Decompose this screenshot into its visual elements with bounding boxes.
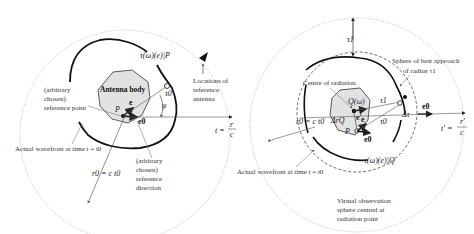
left-panel: Antenna body τ(ω)(e)|P Locations of refe… [15, 30, 236, 234]
t-frac-num: r [230, 120, 234, 129]
t-equals-label: t = [215, 126, 225, 135]
reference-direction-label-4: direction [136, 184, 161, 192]
right-panel: τ1 Sphere of best approach of radius τ1 … [237, 18, 467, 232]
reference-direction-leader [137, 121, 152, 158]
e0-label: e0 [364, 135, 372, 144]
P-label: P [344, 127, 350, 136]
t-frac-num: r' [460, 117, 465, 126]
radius-arrow [88, 118, 124, 203]
e0-label: e0 [138, 117, 146, 126]
radius-label: r0 = c t0 [92, 169, 120, 178]
tau0-label: τ0 [165, 89, 172, 98]
t-frac-den: c [460, 128, 464, 137]
sphere-best-label-2: of radius τ1 [403, 67, 436, 75]
radius-label: r0 = c t0 [296, 117, 324, 126]
e0-arrow-label: e0 [422, 102, 430, 111]
pattern-label: τ(ω)(e)|P [140, 51, 170, 60]
Q-label: Q(ω) [348, 97, 365, 106]
antenna-body [330, 88, 370, 135]
observation-sphere [20, 30, 230, 234]
P-label: P [114, 105, 120, 114]
reference-direction-label-2: chosen) [136, 166, 158, 174]
actual-wavefront-label: Actual wavefront at time t = t0 [237, 168, 324, 176]
pattern-label: τ(ω)(e)|Q [364, 156, 395, 165]
virtual-sphere-label-1: Virtual observation [337, 197, 391, 205]
virtual-sphere-label-2: sphere centred at [337, 206, 384, 214]
centre-radiation-label: Centre of radiation [303, 79, 356, 87]
virtual-sphere-label-3: radiation point [337, 215, 378, 223]
antenna-body-label: Antenna body [100, 85, 145, 94]
antenna-phase-center-diagram: Antenna body τ(ω)(e)|P Locations of refe… [0, 0, 474, 234]
reference-antenna-label-2: reference [193, 86, 219, 94]
actual-wavefront-leader [296, 150, 314, 167]
reference-point-label-3: reference point [44, 104, 86, 112]
wavefront-point [398, 101, 403, 106]
radius-arrow [268, 127, 315, 141]
tau1-label: τ1 [380, 96, 387, 105]
sphere-best-leader [400, 75, 410, 86]
reference-direction-label-3: reference [136, 175, 162, 183]
tau1-top-label: τ1 [347, 35, 354, 44]
best-sphere-point [403, 95, 407, 99]
e-label: e [129, 98, 133, 107]
e-label: e [361, 115, 365, 124]
actual-wavefront-leader [72, 124, 82, 144]
reference-antenna-icon [199, 52, 208, 62]
reference-direction-label-1: (arbitrary [136, 157, 163, 165]
delta-r-label: ΔrQ [330, 116, 345, 125]
reference-point-label-1: (arbitrary [44, 86, 71, 94]
tau0-label: τ0 [380, 117, 387, 126]
t-prime-label: t' = [441, 124, 452, 133]
reference-antenna-label-3: antenna [193, 95, 216, 103]
reference-point-label-2: chosen) [44, 95, 66, 103]
actual-wavefront-label: Actual wavefront at time t = t0 [15, 145, 102, 153]
phi-label: φ [162, 101, 167, 110]
reference-antenna-label-1: Locations of [193, 77, 229, 85]
t-frac-den: c [230, 130, 234, 139]
sphere-best-label-1: Sphere of best approach [392, 57, 460, 65]
